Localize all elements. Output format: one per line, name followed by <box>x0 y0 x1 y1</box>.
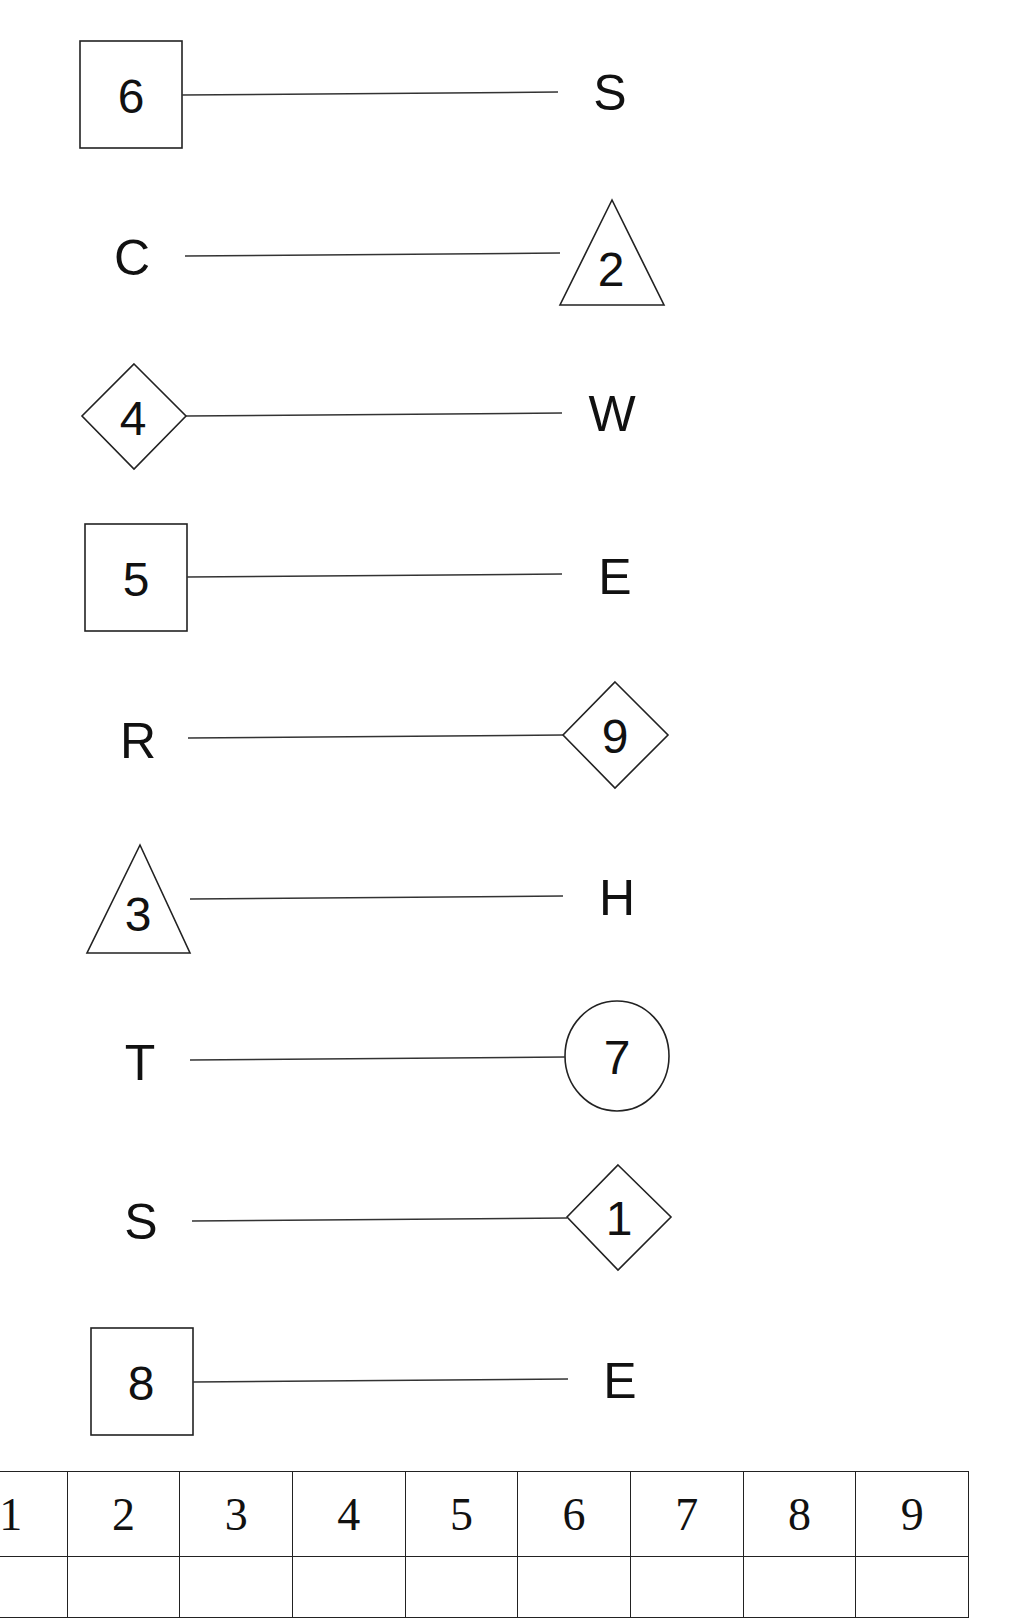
connector-line-1 <box>182 92 558 95</box>
connector-line-8 <box>192 1218 567 1221</box>
header-cell-4: 4 <box>292 1472 405 1557</box>
header-cell-2: 2 <box>67 1472 180 1557</box>
header-cell-1: 1 <box>0 1472 67 1557</box>
right-letter: S <box>593 68 626 118</box>
header-cell-5: 5 <box>405 1472 518 1557</box>
right-letter: W <box>588 389 635 439</box>
diamond-number: 9 <box>602 713 629 761</box>
diamond-number: 1 <box>606 1195 633 1243</box>
right-letter: E <box>603 1356 636 1406</box>
connector-line-4 <box>187 574 562 577</box>
connector-line-6 <box>190 896 563 899</box>
answer-cell-8[interactable] <box>743 1557 856 1618</box>
header-cell-6: 6 <box>518 1472 631 1557</box>
header-cell-8: 8 <box>743 1472 856 1557</box>
square-number: 6 <box>118 73 145 121</box>
square-number: 5 <box>123 556 150 604</box>
diamond-number: 4 <box>120 395 147 443</box>
answer-cell-4[interactable] <box>292 1557 405 1618</box>
answer-table: 1 2 3 4 5 6 7 8 9 <box>0 1471 969 1618</box>
left-letter: S <box>124 1197 157 1247</box>
answer-cell-7[interactable] <box>630 1557 743 1618</box>
right-letter: H <box>599 873 635 923</box>
answer-table-header-row: 1 2 3 4 5 6 7 8 9 <box>0 1472 969 1557</box>
triangle-number: 2 <box>598 246 625 294</box>
right-letter: E <box>598 552 631 602</box>
connector-line-7 <box>190 1057 565 1060</box>
connector-line-9 <box>193 1379 568 1382</box>
left-letter: C <box>114 233 150 283</box>
answer-cell-6[interactable] <box>518 1557 631 1618</box>
answer-table-input-row <box>0 1557 969 1618</box>
triangle-number: 3 <box>125 891 152 939</box>
answer-cell-9[interactable] <box>856 1557 969 1618</box>
answer-cell-1[interactable] <box>0 1557 67 1618</box>
answer-cell-2[interactable] <box>67 1557 180 1618</box>
connector-line-5 <box>188 735 563 738</box>
header-cell-3: 3 <box>180 1472 293 1557</box>
answer-cell-3[interactable] <box>180 1557 293 1618</box>
square-number: 8 <box>128 1360 155 1408</box>
left-letter: T <box>125 1038 156 1088</box>
answer-cell-5[interactable] <box>405 1557 518 1618</box>
left-letter: R <box>120 716 156 766</box>
circle-number: 7 <box>604 1034 631 1082</box>
header-cell-7: 7 <box>630 1472 743 1557</box>
header-cell-9: 9 <box>856 1472 969 1557</box>
connector-line-2 <box>185 253 560 256</box>
connector-line-3 <box>186 413 562 416</box>
